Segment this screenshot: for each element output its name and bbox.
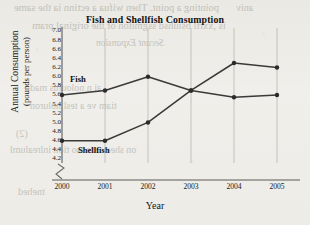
data-point-shellfish-2001 <box>103 139 107 143</box>
plot-area <box>0 0 310 225</box>
data-point-fish-2000 <box>60 93 64 97</box>
data-point-shellfish-2000 <box>60 139 64 143</box>
data-point-shellfish-2003 <box>189 88 193 92</box>
line-chart: Fish and Shellfish Consumption Annual Co… <box>0 0 310 225</box>
data-point-fish-2001 <box>103 88 107 92</box>
data-point-fish-2004 <box>232 95 236 99</box>
series-line-shellfish <box>62 63 277 141</box>
data-point-fish-2005 <box>275 93 279 97</box>
data-point-shellfish-2005 <box>275 65 279 69</box>
series-line-fish <box>62 77 277 98</box>
data-point-fish-2002 <box>146 75 150 79</box>
data-point-shellfish-2004 <box>232 61 236 65</box>
data-point-shellfish-2002 <box>146 120 150 124</box>
axis-break-icon <box>56 164 64 179</box>
